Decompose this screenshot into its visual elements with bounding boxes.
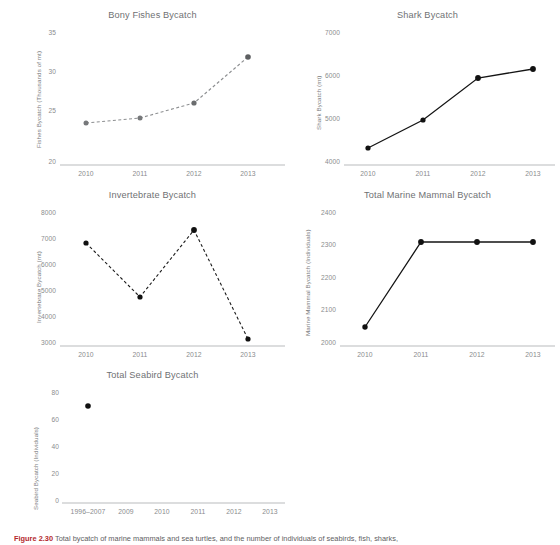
y-tick-label: 7000: [316, 29, 340, 36]
y-tick-label: 2000: [312, 339, 336, 346]
y-tick-label: 60: [39, 416, 59, 423]
figure-caption-number: 2.30: [39, 534, 53, 543]
y-tick-label: 35: [36, 29, 56, 36]
x-tick-label: 2011: [125, 351, 155, 358]
y-tick-label: 8000: [30, 209, 56, 216]
x-tick-label: 2012: [219, 508, 249, 515]
chart-ylabel-bony-fishes: Fishes Bycatch (Thousands of mt): [35, 51, 42, 148]
y-tick-label: 40: [39, 443, 59, 450]
chart-panel-shark: Shark Bycatch Shark Bycatch (mt) 7000 60…: [290, 8, 555, 183]
plot-area-bony-fishes: [60, 32, 285, 172]
x-tick-label: 2010: [353, 170, 383, 177]
figure-caption: Figure 2.30 Total bycatch of marine mamm…: [14, 534, 554, 544]
plot-area-seabird: [62, 392, 285, 510]
y-tick-label: 3000: [30, 339, 56, 346]
x-tick-label: 2010: [147, 508, 177, 515]
figure-sheet: Bony Fishes Bycatch Fishes Bycatch (Thou…: [0, 0, 560, 545]
plot-area-invertebrate: [60, 212, 285, 352]
x-tick-label: 2011: [408, 170, 438, 177]
x-tick-label: 1996–2007: [63, 508, 113, 515]
chart-title-seabird: Total Seabird Bycatch: [30, 370, 275, 380]
x-tick-label: 2011: [125, 170, 155, 177]
plot-area-marine-mammal: [340, 212, 555, 352]
figure-caption-text: Total bycatch of marine mammals and sea …: [55, 534, 398, 543]
chart-title-marine-mammal: Total Marine Mammal Bycatch: [310, 190, 545, 200]
chart-panel-bony-fishes: Bony Fishes Bycatch Fishes Bycatch (Thou…: [20, 8, 285, 183]
chart-title-bony-fishes: Bony Fishes Bycatch: [30, 10, 275, 20]
y-tick-label: 5000: [30, 287, 56, 294]
y-tick-label: 2400: [312, 209, 336, 216]
chart-ylabel-seabird: Seabird Bycatch (Individuals): [32, 427, 39, 510]
x-tick-label: 2012: [463, 170, 493, 177]
y-tick-label: 25: [36, 107, 56, 114]
chart-title-shark: Shark Bycatch: [310, 10, 545, 20]
x-tick-label: 2013: [233, 170, 263, 177]
y-tick-label: 4000: [30, 313, 56, 320]
x-tick-label: 2011: [406, 351, 436, 358]
y-tick-label: 20: [36, 158, 56, 165]
y-tick-label: 2300: [312, 241, 336, 248]
x-tick-label: 2012: [179, 170, 209, 177]
y-tick-label: 7000: [30, 235, 56, 242]
x-tick-label: 2009: [111, 508, 141, 515]
y-tick-label: 0: [39, 497, 59, 504]
y-tick-label: 4000: [316, 158, 340, 165]
x-tick-label: 2013: [518, 170, 548, 177]
y-tick-label: 30: [36, 68, 56, 75]
y-tick-label: 2200: [312, 274, 336, 281]
x-tick-label: 2012: [462, 351, 492, 358]
chart-title-invertebrate: Invertebrate Bycatch: [30, 190, 275, 200]
plot-area-shark: [344, 32, 555, 172]
x-tick-label: 2013: [233, 351, 263, 358]
x-tick-label: 2012: [179, 351, 209, 358]
y-tick-label: 80: [39, 389, 59, 396]
x-tick-label: 2010: [350, 351, 380, 358]
y-tick-label: 6000: [30, 261, 56, 268]
chart-panel-seabird: Total Seabird Bycatch Seabird Bycatch (I…: [20, 368, 285, 528]
x-tick-label: 2011: [183, 508, 213, 515]
y-tick-label: 5000: [316, 115, 340, 122]
x-tick-label: 2010: [71, 351, 101, 358]
figure-caption-label: Figure: [14, 534, 37, 543]
x-tick-label: 2013: [518, 351, 548, 358]
x-tick-label: 2010: [71, 170, 101, 177]
y-tick-label: 20: [39, 470, 59, 477]
chart-panel-invertebrate: Invertebrate Bycatch Invertebrate Bycatc…: [20, 188, 285, 363]
chart-panel-marine-mammal: Total Marine Mammal Bycatch Marine Mamma…: [290, 188, 555, 363]
y-tick-label: 2100: [312, 306, 336, 313]
x-tick-label: 2013: [255, 508, 285, 515]
y-tick-label: 6000: [316, 72, 340, 79]
chart-ylabel-marine-mammal: Marine Mammal Bycatch (Individuals): [304, 229, 311, 336]
